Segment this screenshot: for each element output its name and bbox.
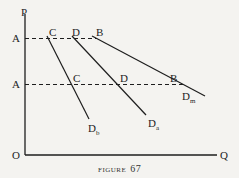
curve-label-dm: Dm bbox=[182, 90, 196, 105]
upper-point-d: D bbox=[72, 26, 80, 38]
upper-price-label: A bbox=[12, 32, 20, 44]
p-axis-label: P bbox=[21, 6, 27, 18]
curve-label-da: Da bbox=[148, 117, 160, 132]
lower-price-label: A bbox=[12, 78, 20, 90]
demand-diagram: P Q O A A C D B C D B Db Da Dm FIGURE67 bbox=[0, 0, 239, 178]
demand-curve-db bbox=[47, 36, 89, 119]
demand-curve-da bbox=[72, 36, 146, 115]
figure-caption: FIGURE67 bbox=[98, 163, 141, 174]
curve-label-db: Db bbox=[88, 122, 100, 137]
lower-point-c: C bbox=[73, 72, 80, 84]
upper-point-b: B bbox=[96, 26, 103, 38]
lower-point-d: D bbox=[120, 72, 128, 84]
origin-label: O bbox=[12, 149, 20, 161]
lower-point-b: B bbox=[170, 72, 177, 84]
demand-curve-dm bbox=[92, 36, 205, 96]
q-axis-label: Q bbox=[220, 149, 228, 161]
upper-point-c: C bbox=[49, 26, 56, 38]
